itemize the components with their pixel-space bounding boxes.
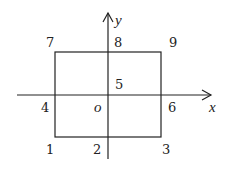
x-axis-label: x xyxy=(208,99,216,115)
point-label-8: 8 xyxy=(114,35,122,50)
y-axis-label: y xyxy=(113,12,122,28)
point-label-7: 7 xyxy=(46,35,54,50)
point-label-4: 4 xyxy=(41,100,49,115)
point-label-1: 1 xyxy=(46,142,54,157)
point-label-3: 3 xyxy=(162,142,170,157)
point-label-6: 6 xyxy=(168,100,176,115)
coordinate-diagram: y x o 7 8 9 5 4 6 1 2 3 xyxy=(0,0,229,169)
point-label-5: 5 xyxy=(115,77,123,92)
point-label-2: 2 xyxy=(93,142,101,157)
point-label-9: 9 xyxy=(169,35,177,50)
origin-label: o xyxy=(94,99,102,115)
